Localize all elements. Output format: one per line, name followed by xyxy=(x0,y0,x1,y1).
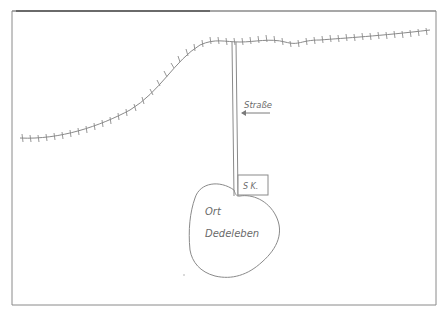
road xyxy=(232,42,238,196)
sign-label: S K. xyxy=(243,182,258,191)
road-label: Straße xyxy=(244,100,272,110)
map-frame xyxy=(12,11,436,305)
road-arrow-icon xyxy=(241,110,270,116)
village-label-type: Ort xyxy=(205,206,222,217)
map-canvas: Straße S K. Ort Dedeleben xyxy=(0,0,439,316)
village-label-name: Dedeleben xyxy=(205,228,259,239)
stray-mark xyxy=(183,274,185,276)
railway-line xyxy=(20,28,430,142)
sketch-map: Straße S K. Ort Dedeleben xyxy=(0,0,439,316)
